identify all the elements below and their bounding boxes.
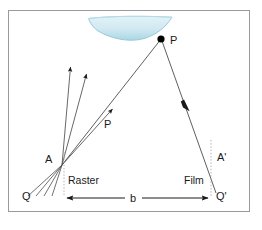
label-point-p-outer: P	[170, 34, 177, 46]
label-point-p-inner: P	[104, 118, 111, 130]
figure-container: P P A A' Q Q' Raster Film b	[0, 0, 262, 230]
label-point-q: Q	[22, 190, 31, 202]
projection-geometry-diagram: P P A A' Q Q' Raster Film b	[0, 0, 262, 230]
label-baseline-b: b	[130, 192, 136, 204]
label-plane-raster: Raster	[68, 174, 99, 186]
label-point-q-prime: Q'	[216, 190, 227, 202]
label-plane-film: Film	[184, 174, 204, 186]
label-point-a-prime: A'	[217, 151, 226, 163]
point-p-marker	[157, 35, 164, 42]
label-point-a: A	[45, 153, 53, 165]
